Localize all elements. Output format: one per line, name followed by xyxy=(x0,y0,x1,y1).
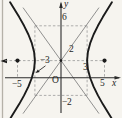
tick-label-y6: 6 xyxy=(62,13,66,23)
figure-labels: y 6 2 −3 3 O −5 5 x −2 xyxy=(0,0,122,118)
tick-label-x5: 5 xyxy=(100,79,104,89)
tick-label-x3: 3 xyxy=(83,63,87,73)
tick-label-y2: 2 xyxy=(69,45,73,55)
tick-label-xneg5: −5 xyxy=(12,80,22,90)
x-axis-label: x xyxy=(112,79,116,89)
hyperbola-figure: y 6 2 −3 3 O −5 5 x −2 xyxy=(0,0,122,118)
y-axis-label: y xyxy=(64,0,68,10)
origin-label: O xyxy=(52,76,59,86)
tick-label-xneg3: −3 xyxy=(40,56,50,66)
tick-label-yneg2: −2 xyxy=(62,98,72,108)
